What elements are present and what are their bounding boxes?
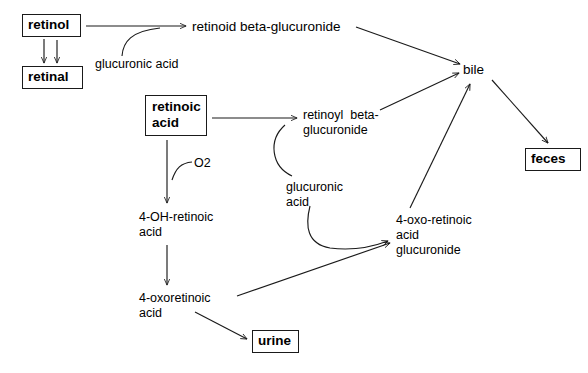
- node-bile: bile: [463, 62, 484, 78]
- edge-retinoid-bg-to-bile: [356, 27, 460, 64]
- edge-oxoretinoic-to-oxo-ra-glucuronide: [237, 243, 390, 296]
- edge-bile-to-feces: [492, 80, 548, 143]
- node-4-oh-retinoic-acid: 4-OH-retinoic acid: [139, 210, 213, 240]
- node-feces[interactable]: feces: [525, 148, 581, 171]
- edge-oxygen-curve: [172, 162, 192, 180]
- edge-label-oxygen: O2: [194, 156, 211, 171]
- pathway-diagram: retinol retinal retinoic acid urine fece…: [0, 0, 588, 373]
- node-retinoic-acid[interactable]: retinoic acid: [145, 95, 207, 136]
- edge-glucuronic-acid-2-to-oxo-ra-glucuronide: [308, 206, 388, 249]
- node-retinoid-beta-glucuronide: retinoid beta-glucuronide: [192, 19, 341, 35]
- node-retinol[interactable]: retinol: [22, 14, 81, 37]
- node-4-oxo-retinoic-acid-glucuronide: 4-oxo-retinoic acid glucuronide: [396, 213, 472, 257]
- edge-label-glucuronic-acid-2: glucuronic acid: [286, 180, 343, 210]
- node-4-oxoretinoic-acid: 4-oxoretinoic acid: [139, 291, 211, 321]
- node-retinal[interactable]: retinal: [22, 66, 83, 89]
- node-urine[interactable]: urine: [252, 330, 299, 353]
- edge-label-glucuronic-acid-1: glucuronic acid: [95, 57, 178, 72]
- edge-glucuronic-acid-2-curve: [274, 125, 292, 176]
- node-retinoyl-beta-glucuronide: retinoyl beta- glucuronide: [303, 108, 379, 138]
- edge-oxo-ra-glucuronide-to-bile: [410, 84, 470, 208]
- edge-retinoyl-bg-to-bile: [380, 73, 459, 110]
- edge-glucuronic-acid-1-curve: [122, 28, 160, 56]
